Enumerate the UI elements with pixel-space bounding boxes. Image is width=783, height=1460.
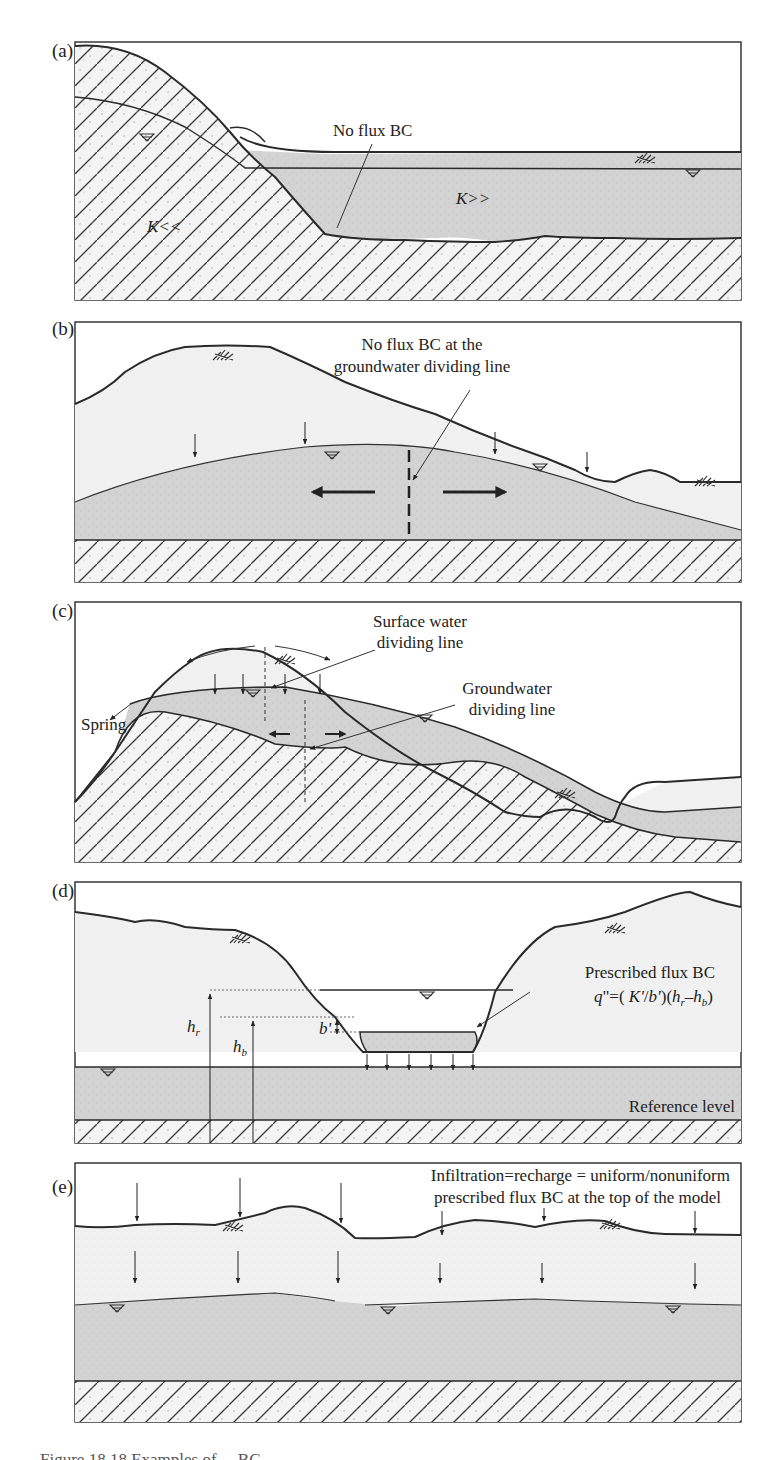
infiltration-callout-line2: prescribed flux BC at the top of the mod… (434, 1188, 721, 1207)
k-high-label: K>> (455, 189, 490, 208)
prescribed-flux-label: Prescribed flux BC (585, 963, 715, 982)
panel-d-label: (d) (52, 880, 74, 902)
panel-a-label: (a) (52, 40, 73, 62)
panel-c-diagram: Surface water dividing line Groundwater … (75, 602, 741, 862)
panel-d-diagram: Prescribed flux BC q"=( K'/b')(hr–hb) hr… (75, 882, 741, 1143)
no-flux-callout: No flux BC (333, 121, 412, 140)
k-low-label: K<< (146, 217, 181, 236)
panel-e-diagram: Infiltration=recharge = uniform/nonunifo… (75, 1163, 741, 1422)
figure-caption: Figure 18.18 Examples of ... BC ... (40, 1446, 760, 1460)
b-prime-label: b' (319, 1019, 332, 1038)
surface-divide-label-line1: Surface water (373, 612, 467, 631)
panel-a-diagram: No flux BC K<< K>> (75, 42, 741, 300)
no-flux-callout-line1: No flux BC at the (362, 335, 483, 354)
panel-b-diagram: No flux BC at the groundwater dividing l… (75, 322, 741, 582)
infiltration-callout-line1: Infiltration=recharge = uniform/nonunifo… (431, 1166, 730, 1185)
no-flux-callout-line2: groundwater dividing line (334, 357, 511, 376)
panel-e-label: (e) (52, 1176, 73, 1198)
panel-c-label: (c) (52, 600, 73, 622)
panel-b-label: (b) (52, 318, 74, 340)
reference-level-label: Reference level (629, 1097, 735, 1116)
groundwater-divide-label-line1: Groundwater (462, 679, 552, 698)
flux-formula: q"=( K'/b')(hr–hb) (594, 987, 713, 1008)
surface-divide-label-line2: dividing line (377, 633, 463, 652)
spring-label: Spring (81, 715, 127, 734)
groundwater-divide-label-line2: dividing line (469, 700, 555, 719)
